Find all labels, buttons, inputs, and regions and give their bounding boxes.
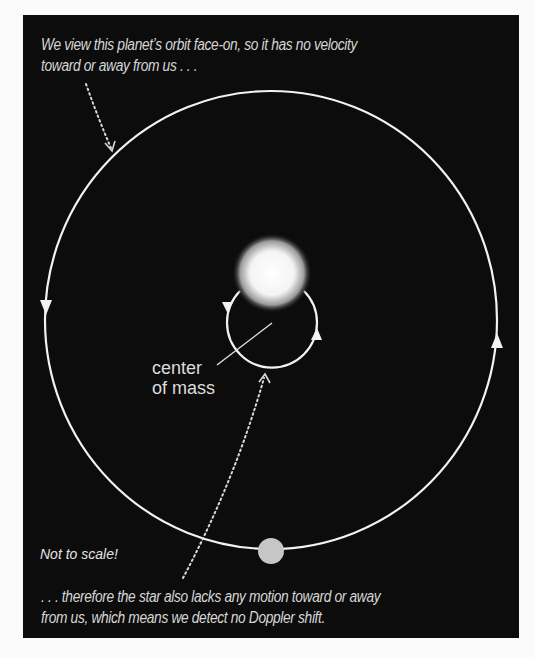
planet-orbit-arrow-down-icon <box>40 300 52 315</box>
bottom-caption-line-1: . . . therefore the star also lacks any … <box>41 586 380 607</box>
top-dotted-arrow <box>86 84 111 148</box>
center-of-mass-line-2: of mass <box>152 378 215 398</box>
top-caption: We view this planet’s orbit face-on, so … <box>41 34 357 76</box>
star-orbit-arrow-up-icon <box>311 328 322 340</box>
top-caption-line-2: toward or away from us . . . <box>41 55 357 76</box>
planet-orbit-arrow-up-icon <box>491 333 503 348</box>
star <box>232 233 312 313</box>
center-of-mass-label: center of mass <box>152 358 215 398</box>
planet <box>258 538 284 564</box>
star-orbit-arrow-down-icon <box>222 302 233 314</box>
not-to-scale-note: Not to scale! <box>40 546 118 562</box>
center-of-mass-line-1: center <box>152 358 215 378</box>
bottom-caption-line-2: from us, which means we detect no Dopple… <box>41 607 380 628</box>
top-caption-line-1: We view this planet’s orbit face-on, so … <box>41 34 357 55</box>
bottom-caption: . . . therefore the star also lacks any … <box>41 586 380 628</box>
planet-orbit <box>45 91 497 549</box>
